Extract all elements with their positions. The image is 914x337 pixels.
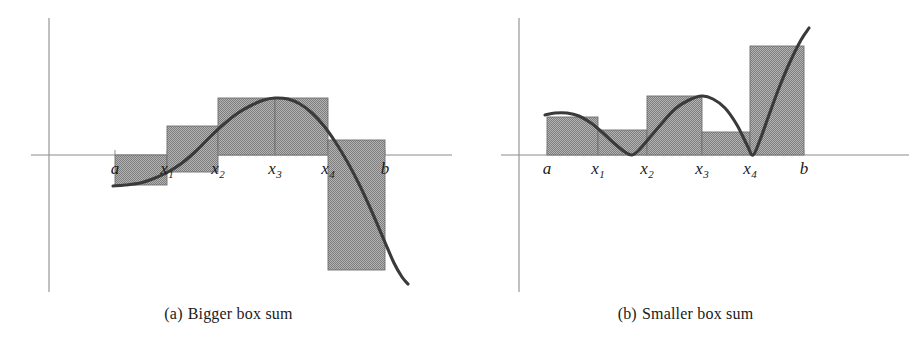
riemann-sum-figure: ax1x2x3x4b (a)Bigger box sum ax1x2x3x4b … <box>0 0 914 337</box>
caption-b-text: Smaller box sum <box>642 305 753 322</box>
tick-label-x2: x2 <box>639 159 654 180</box>
tick-label-b: b <box>800 159 809 178</box>
tick-label-x3: x3 <box>267 159 282 180</box>
tick-label-a: a <box>111 159 120 178</box>
panel-bigger-box-sum: ax1x2x3x4b (a)Bigger box sum <box>0 0 457 337</box>
tick-label-x2: x2 <box>210 159 225 180</box>
bar-x4-b <box>328 140 385 270</box>
tick-labels-group: ax1x2x3x4b <box>543 159 809 180</box>
caption-b-label: (b) <box>618 305 637 322</box>
tick-label-a: a <box>543 159 552 178</box>
caption-a-text: Bigger box sum <box>188 305 293 322</box>
caption-a-label: (a) <box>164 305 182 322</box>
bar-a-x1 <box>115 155 167 185</box>
tick-label-x1: x1 <box>590 159 605 180</box>
plot-area-a: ax1x2x3x4b <box>0 0 457 300</box>
panel-smaller-box-sum: ax1x2x3x4b (b)Smaller box sum <box>457 0 914 337</box>
caption-a: (a)Bigger box sum <box>0 305 457 323</box>
tick-label-b: b <box>381 159 390 178</box>
tick-label-x3: x3 <box>694 159 709 180</box>
plot-area-b: ax1x2x3x4b <box>457 0 914 300</box>
bars-group <box>115 98 385 270</box>
bars-group <box>547 46 804 155</box>
bar-x2-x3 <box>647 96 702 155</box>
caption-b: (b)Smaller box sum <box>457 305 914 323</box>
tick-label-x4: x4 <box>742 159 757 180</box>
bar-x4-b <box>750 46 804 155</box>
